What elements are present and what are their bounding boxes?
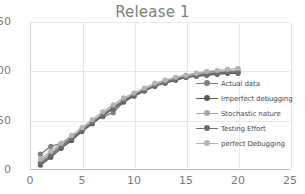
legend-item[interactable]: perfect Debugging (196, 136, 302, 151)
legend-marker-icon (196, 94, 218, 104)
x-axis-tick-label: 10 (122, 174, 146, 187)
series-marker (131, 90, 136, 95)
legend-item[interactable]: Stochastic nature (196, 106, 302, 121)
legend-marker-icon (196, 124, 218, 134)
legend-item-label: Testing Effort (221, 125, 266, 133)
series-marker (215, 68, 220, 73)
series-marker (183, 73, 188, 78)
series-marker (235, 66, 240, 71)
series-marker (59, 141, 64, 146)
series-marker (121, 95, 126, 100)
chart-container: Release 1 050100150 0510152025 Actual da… (0, 0, 305, 194)
series-marker (38, 157, 43, 162)
y-axis-tick-label: 150 (0, 15, 11, 28)
series-marker (173, 75, 178, 80)
legend-item-label: Stochastic nature (221, 110, 281, 118)
chart-legend: Actual dataImperfect debuggingStochastic… (196, 76, 302, 151)
x-axis-tick-label: 5 (70, 174, 94, 187)
y-axis-tick-label: 50 (0, 114, 11, 127)
series-marker (142, 86, 147, 91)
chart-title: Release 1 (0, 3, 305, 21)
legend-item[interactable]: Testing Effort (196, 121, 302, 136)
series-marker (100, 109, 105, 114)
series-marker (69, 133, 74, 138)
series-marker (38, 152, 43, 157)
series-marker (48, 149, 53, 154)
x-axis-tick-label: 15 (174, 174, 198, 187)
series-marker (111, 102, 116, 107)
legend-marker-icon (196, 79, 218, 89)
y-axis-tick-label: 0 (0, 163, 11, 176)
series-marker (152, 81, 157, 86)
series-marker (204, 69, 209, 74)
series-marker (225, 67, 230, 72)
series-marker (79, 125, 84, 130)
series-marker (90, 117, 95, 122)
y-axis-tick-label: 100 (0, 64, 11, 77)
legend-marker-icon (196, 109, 218, 119)
series-marker (163, 78, 168, 83)
series-marker (48, 144, 53, 149)
x-axis-tick-label: 20 (226, 174, 250, 187)
legend-item[interactable]: Actual data (196, 76, 302, 91)
legend-marker-icon (196, 139, 218, 149)
x-axis-tick-label: 25 (278, 174, 302, 187)
x-axis-tick-label: 0 (18, 174, 42, 187)
legend-item[interactable]: Imperfect debugging (196, 91, 302, 106)
legend-item-label: Actual data (221, 80, 260, 88)
legend-item-label: Imperfect debugging (221, 95, 293, 103)
legend-item-label: perfect Debugging (221, 140, 285, 148)
